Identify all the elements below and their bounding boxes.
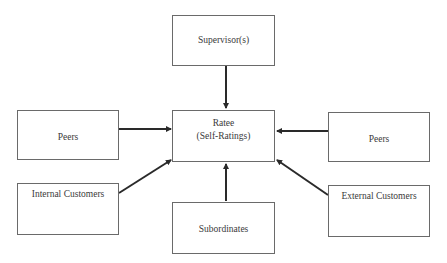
supervisor-box: Supervisor(s) — [172, 15, 275, 66]
external-customers-box: External Customers — [328, 185, 430, 237]
ratee-label: Ratee — [173, 117, 274, 130]
internal-customers-label: Internal Customers — [18, 188, 118, 201]
ratee-sublabel: (Self-Ratings) — [173, 130, 274, 143]
arrow-external-customers-to-ratee — [277, 160, 328, 195]
subordinates-box: Subordinates — [172, 202, 275, 254]
left-peers-box: Peers — [17, 110, 119, 160]
ratee-box: Ratee (Self-Ratings) — [172, 110, 275, 162]
supervisor-label: Supervisor(s) — [173, 34, 274, 47]
external-customers-label: External Customers — [329, 190, 429, 203]
left-peers-label: Peers — [18, 131, 118, 144]
right-peers-box: Peers — [328, 112, 430, 162]
arrow-internal-customers-to-ratee — [119, 160, 171, 193]
subordinates-label: Subordinates — [173, 223, 274, 236]
right-peers-label: Peers — [329, 133, 429, 146]
internal-customers-box: Internal Customers — [17, 183, 119, 235]
